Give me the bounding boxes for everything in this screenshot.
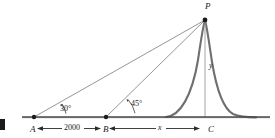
dimension-line-BC	[109, 126, 200, 131]
sight-line-from-B	[106, 20, 205, 117]
label-point-P: P	[205, 2, 211, 11]
label-angle-at-B: 45°	[131, 100, 142, 108]
label-distance-BC: x	[158, 124, 162, 132]
point-marker-P	[203, 18, 208, 23]
point-marker-B	[104, 115, 108, 119]
sight-line-from-A	[34, 20, 205, 117]
point-marker-A	[32, 115, 36, 119]
figure-canvas	[0, 0, 275, 138]
label-distance-AB: 2000	[64, 124, 80, 132]
label-point-C: C	[208, 125, 214, 134]
trigonometry-figure: P A B C 30° 45° 2000 x y	[0, 0, 275, 138]
label-height-y: y	[209, 62, 213, 70]
figure-index-marker	[0, 119, 5, 130]
label-point-A: A	[30, 125, 36, 134]
label-point-B: B	[103, 125, 109, 134]
label-angle-at-A: 30°	[60, 105, 71, 113]
